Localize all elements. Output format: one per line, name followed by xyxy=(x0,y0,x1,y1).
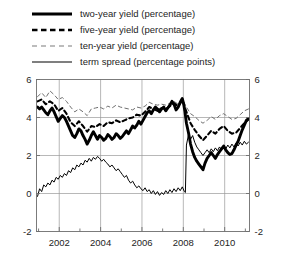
x-axis-label: 2004 xyxy=(90,237,111,248)
y-axis-label-right: 6 xyxy=(255,74,260,85)
legend-label-two-year-yield: two-year yield (percentage) xyxy=(80,9,195,19)
y-axis-label-right: 2 xyxy=(255,150,260,161)
line-chart: -2-20022446620022004200620082010 xyxy=(0,70,287,277)
legend-item: term spread (percentage points) xyxy=(30,54,280,70)
y-axis-label-left: 0 xyxy=(26,188,31,199)
legend-swatch-thick-dashed xyxy=(30,23,74,37)
legend-item: five-year yield (percentage) xyxy=(30,22,280,38)
legend-item: two-year yield (percentage) xyxy=(30,6,280,22)
series-line-term xyxy=(38,135,249,197)
y-axis-label-left: -2 xyxy=(23,226,31,237)
x-axis-label: 2002 xyxy=(49,237,70,248)
y-axis-label-right: -2 xyxy=(255,226,263,237)
y-axis-label-right: 4 xyxy=(255,112,260,123)
legend-swatch-thin-dashed xyxy=(30,39,74,53)
y-axis-label-left: 2 xyxy=(26,150,31,161)
legend-label-term-spread: term spread (percentage points) xyxy=(80,57,215,67)
legend-swatch-thick-solid xyxy=(30,7,74,21)
legend-item: ten-year yield (percentage) xyxy=(30,38,280,54)
series-group xyxy=(38,91,249,196)
legend-label-five-year-yield: five-year yield (percentage) xyxy=(80,25,195,35)
chart-plot-area: -2-20022446620022004200620082010 xyxy=(0,70,287,277)
series-line-two-year xyxy=(38,99,249,170)
y-axis-label-left: 4 xyxy=(26,112,31,123)
x-axis-label: 2010 xyxy=(214,237,235,248)
x-axis-label: 2006 xyxy=(131,237,152,248)
y-axis-label-left: 6 xyxy=(26,74,31,85)
legend-label-ten-year-yield: ten-year yield (percentage) xyxy=(80,41,194,51)
x-axis-label: 2008 xyxy=(173,237,194,248)
y-axis-label-right: 0 xyxy=(255,188,260,199)
legend-swatch-thin-solid xyxy=(30,55,74,69)
figure-root: two-year yield (percentage) five-year yi… xyxy=(0,0,287,277)
chart-legend: two-year yield (percentage) five-year yi… xyxy=(30,6,280,70)
